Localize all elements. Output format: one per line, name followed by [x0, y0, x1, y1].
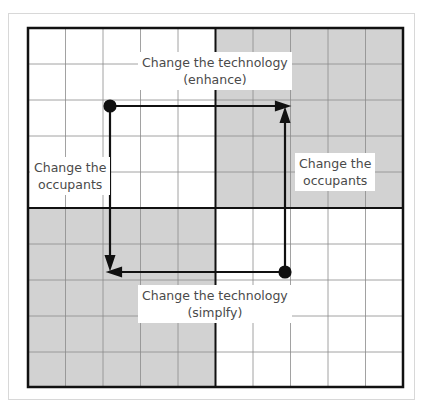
label-line: occupants [34, 176, 106, 193]
label-line: Change the technology [142, 287, 288, 304]
label-line: Change the [299, 155, 371, 172]
start-dot-icon [105, 101, 116, 112]
label-line: Change the [34, 159, 106, 176]
label-change-technology-enhance: Change the technology (enhance) [138, 52, 292, 90]
label-line: (simplfy) [142, 304, 288, 321]
label-change-occupants-right: Change the occupants [295, 153, 375, 191]
end-dot-icon [280, 267, 291, 278]
label-line: occupants [299, 172, 371, 189]
label-change-occupants-left: Change the occupants [30, 157, 110, 195]
label-change-technology-simplify: Change the technology (simplfy) [138, 285, 292, 323]
label-line: Change the technology [142, 54, 288, 71]
label-line: (enhance) [142, 71, 288, 88]
